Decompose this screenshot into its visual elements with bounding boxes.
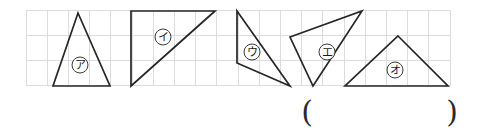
figures-diagram: アイウエオ () bbox=[0, 0, 480, 136]
triangle-u-label: ウ bbox=[247, 46, 258, 59]
triangle-i bbox=[131, 11, 215, 86]
worksheet-canvas: アイウエオ () bbox=[0, 0, 480, 136]
triangle-o-label: オ bbox=[390, 64, 401, 77]
answer-open-paren: ( bbox=[301, 94, 313, 129]
answer-close-paren: ) bbox=[446, 94, 458, 129]
triangle-a-label: ア bbox=[75, 59, 86, 72]
triangle-e-label: エ bbox=[322, 46, 333, 59]
triangle-a bbox=[53, 13, 110, 86]
answer-parentheses[interactable]: () bbox=[301, 94, 458, 129]
triangle-i-label: イ bbox=[158, 31, 169, 44]
